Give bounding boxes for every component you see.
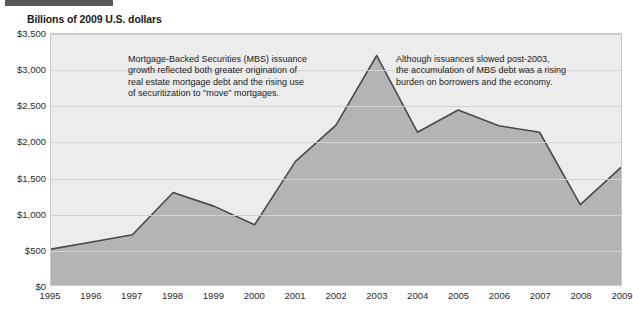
- y-tick-label: $1,500: [17, 172, 46, 183]
- x-tick-label: 1998: [162, 290, 183, 301]
- x-tick-label: 2000: [244, 290, 265, 301]
- chart-figure: Billions of 2009 U.S. dollars $0$500$1,0…: [0, 0, 633, 311]
- y-tick-label: $500: [25, 244, 46, 255]
- y-axis-labels: $0$500$1,000$1,500$2,000$2,500$3,000$3,5…: [0, 0, 46, 311]
- gridline: [51, 179, 621, 180]
- gridline: [51, 251, 621, 252]
- x-tick-label: 2003: [366, 290, 387, 301]
- gridline: [51, 142, 621, 143]
- y-tick-label: $2,000: [17, 136, 46, 147]
- gridline: [51, 34, 621, 35]
- x-tick-label: 2004: [407, 290, 428, 301]
- x-tick-label: 2007: [530, 290, 551, 301]
- x-tick-label: 2005: [448, 290, 469, 301]
- x-tick-label: 1999: [203, 290, 224, 301]
- y-tick-label: $1,000: [17, 208, 46, 219]
- annotation-post-2003: Although issuances slowed post-2003, the…: [396, 54, 611, 88]
- y-tick-label: $2,500: [17, 100, 46, 111]
- x-tick-label: 2009: [611, 290, 632, 301]
- x-tick-label: 2006: [489, 290, 510, 301]
- x-tick-label: 1995: [39, 290, 60, 301]
- x-tick-label: 2008: [571, 290, 592, 301]
- x-tick-label: 2002: [325, 290, 346, 301]
- gridline: [51, 106, 621, 107]
- y-tick-label: $3,000: [17, 64, 46, 75]
- y-tick-label: $3,500: [17, 28, 46, 39]
- gridline: [51, 215, 621, 216]
- annotation-mbs-growth: Mortgage-Backed Securities (MBS) issuanc…: [128, 54, 333, 100]
- chart-units-title: Billions of 2009 U.S. dollars: [27, 13, 162, 25]
- x-tick-label: 1997: [121, 290, 142, 301]
- x-tick-label: 2001: [285, 290, 306, 301]
- x-tick-label: 1996: [80, 290, 101, 301]
- x-axis-labels: 1995199619971998199920002001200220032004…: [50, 290, 622, 308]
